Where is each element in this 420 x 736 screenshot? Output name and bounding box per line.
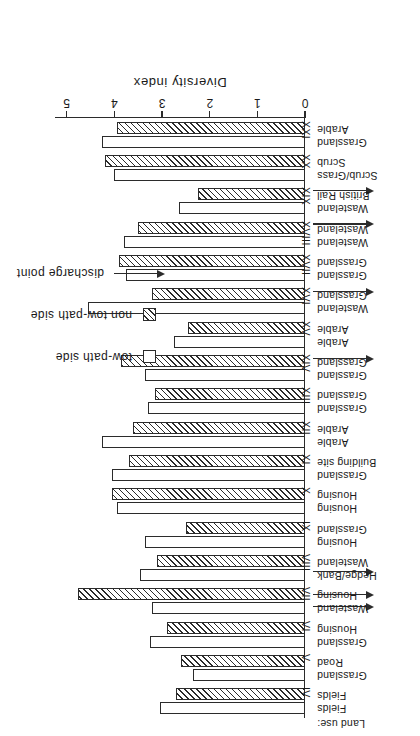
site-roman-numeral: XVI	[300, 287, 312, 305]
site-roman-numeral: VI	[300, 621, 312, 632]
legend: tow-path side non tow-path side discharg…	[4, 214, 156, 364]
site-roman-numeral: XXI	[300, 121, 312, 139]
legend-label: discharge point	[17, 266, 104, 280]
site-roman-numeral: XX	[300, 154, 312, 169]
land-use-non-tow-path: Grassland	[317, 390, 417, 402]
land-use-tow-path: Housing	[317, 503, 417, 515]
land-use-non-tow-path: Building site	[317, 457, 417, 469]
bar-tow-path	[148, 402, 305, 414]
land-use-header: Land use:	[317, 718, 417, 730]
land-use-non-tow-path: Grassland	[317, 257, 417, 269]
bar-group	[57, 585, 305, 618]
land-use-non-tow-path: Fields	[317, 690, 417, 702]
land-use-tow-path: Grassland	[317, 370, 417, 382]
bar-non-tow-path	[157, 555, 305, 567]
axis-tick-label: 5	[55, 96, 79, 110]
site-roman-numeral: XIV	[300, 354, 312, 372]
site-roman-numeral: X	[300, 487, 312, 494]
bar-non-tow-path	[188, 322, 305, 334]
bar-tow-path	[145, 369, 305, 381]
legend-label: non tow-path side	[30, 308, 132, 322]
land-use-tow-path: Scrub/Grass	[317, 170, 417, 182]
bar-tow-path	[112, 469, 305, 481]
land-use-non-tow-path: Housing	[317, 590, 417, 602]
diversity-index-bar-chart: 012345 Diversity index Land use: IVField…	[0, 0, 420, 736]
axis-tick-label: 0	[293, 96, 317, 110]
land-use-non-tow-path: Grassland	[317, 357, 417, 369]
legend-item-discharge-point: discharge point	[4, 262, 156, 280]
bar-non-tow-path	[167, 622, 305, 634]
bar-non-tow-path	[152, 288, 305, 300]
axis-tick	[114, 111, 115, 118]
site-roman-numeral: XV	[300, 321, 312, 336]
bar-tow-path	[160, 702, 305, 714]
value-axis-line	[55, 117, 305, 118]
bar-non-tow-path	[155, 388, 305, 400]
land-use-non-tow-path: Grassland	[317, 290, 417, 302]
bar-group	[57, 451, 305, 484]
plot-area	[57, 118, 305, 718]
land-use-non-tow-path: Arable	[317, 324, 417, 336]
legend-item-non-tow-path: non tow-path side	[4, 304, 156, 322]
open-square-icon	[143, 350, 156, 363]
land-use-tow-path: Grassland	[317, 270, 417, 282]
land-use-tow-path: Fields	[317, 703, 417, 715]
axis-tick	[304, 111, 305, 118]
site-roman-numeral: XI	[300, 454, 312, 465]
land-use-non-tow-path: Arable	[317, 424, 417, 436]
bar-non-tow-path	[129, 455, 305, 467]
bar-tow-path	[114, 169, 305, 181]
bar-non-tow-path	[186, 522, 305, 534]
bar-non-tow-path	[133, 422, 305, 434]
bar-tow-path	[102, 436, 305, 448]
bar-group	[57, 685, 305, 718]
land-use-tow-path: Wasteland	[317, 303, 417, 315]
bar-non-tow-path	[78, 588, 305, 600]
bar-non-tow-path	[117, 122, 305, 134]
site-roman-numeral: V	[300, 654, 312, 661]
bar-tow-path	[179, 202, 305, 214]
bar-group	[57, 618, 305, 651]
land-use-non-tow-path: Wasteland	[317, 224, 417, 236]
land-use-non-tow-path: Housing	[317, 624, 417, 636]
site-roman-numeral: XIII	[300, 387, 312, 404]
bar-non-tow-path	[198, 188, 305, 200]
site-roman-numeral: IV	[300, 687, 312, 698]
land-use-non-tow-path: Road	[317, 657, 417, 669]
land-use-tow-path: Grassland	[317, 670, 417, 682]
bar-non-tow-path	[105, 155, 305, 167]
site-roman-numeral: VIII	[300, 554, 312, 571]
axis-tick	[66, 111, 67, 118]
site-roman-numeral: XIX	[300, 187, 312, 205]
bar-group	[57, 485, 305, 518]
bar-tow-path	[193, 669, 305, 681]
site-roman-numeral: XVIII	[300, 221, 312, 246]
figure-stage: 012345 Diversity index Land use: IVField…	[0, 0, 420, 736]
land-use-tow-path: Arable	[317, 437, 417, 449]
bar-group	[57, 551, 305, 584]
site-roman-numeral: XVII	[300, 254, 312, 275]
land-use-non-tow-path: Wasteland	[317, 557, 417, 569]
axis-tick-label: 1	[245, 96, 269, 110]
arrow-icon	[114, 273, 158, 274]
land-use-non-tow-path: Arable	[317, 124, 417, 136]
axis-tick	[161, 111, 162, 118]
land-use-non-tow-path: Housing	[317, 490, 417, 502]
bar-group	[57, 151, 305, 184]
land-use-tow-path: Grassland	[317, 637, 417, 649]
bar-group	[57, 518, 305, 551]
bar-group	[57, 118, 305, 151]
site-roman-numeral: XII	[300, 421, 312, 435]
axis-tick	[257, 111, 258, 118]
bar-group	[57, 418, 305, 451]
axis-tick-label: 4	[102, 96, 126, 110]
bar-tow-path	[152, 602, 305, 614]
land-use-non-tow-path: Scrub	[317, 157, 417, 169]
axis-title: Diversity index	[55, 75, 305, 90]
bar-group	[57, 385, 305, 418]
bar-non-tow-path	[112, 488, 305, 500]
bar-tow-path	[150, 636, 305, 648]
legend-label: tow-path side	[55, 350, 132, 364]
axis-tick-label: 3	[150, 96, 174, 110]
bar-tow-path	[117, 502, 305, 514]
